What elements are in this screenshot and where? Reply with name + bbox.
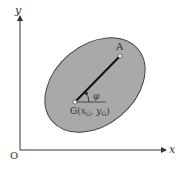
point-G [73, 100, 77, 104]
point-A-label: A [115, 41, 124, 52]
rigid-body-ellipse [26, 18, 163, 151]
point-A [118, 54, 122, 58]
angle-phi-label: φ [93, 91, 100, 101]
y-axis-label: y [14, 4, 22, 17]
rigid-body-diagram: y x O A φ G(xG, yG) [0, 0, 184, 171]
origin-label: O [10, 150, 18, 161]
x-axis-label: x [169, 143, 176, 156]
